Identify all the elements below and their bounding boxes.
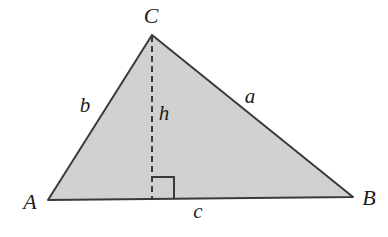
vertex-label-C: C [144, 5, 159, 27]
side-label-c: c [193, 201, 202, 222]
altitude-label-h: h [159, 103, 170, 124]
vertex-label-A: A [23, 191, 36, 213]
vertex-label-B: B [362, 187, 375, 209]
side-label-b: b [80, 95, 91, 116]
side-label-a: a [245, 86, 256, 107]
triangle-shape-fill [48, 35, 353, 200]
triangle-body [48, 35, 353, 200]
triangle-figure: A B C a b c h [0, 0, 388, 237]
